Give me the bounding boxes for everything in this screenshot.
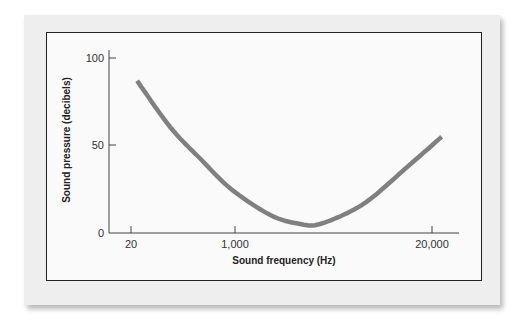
x-tick-label-20000: 20,000 <box>415 238 449 250</box>
y-tick-label-0: 0 <box>98 227 104 239</box>
y-tick-label-50: 50 <box>92 139 104 151</box>
y-axis-title: Sound pressure (decibels) <box>61 77 72 203</box>
chart-svg: 100 50 0 20 1,000 20,000 Sound frequency… <box>0 0 530 328</box>
y-tick-label-100: 100 <box>86 52 104 64</box>
x-axis-title: Sound frequency (Hz) <box>232 255 335 266</box>
threshold-curve <box>137 81 442 226</box>
x-tick-label-20: 20 <box>125 238 137 250</box>
x-tick-label-1000: 1,000 <box>221 238 249 250</box>
